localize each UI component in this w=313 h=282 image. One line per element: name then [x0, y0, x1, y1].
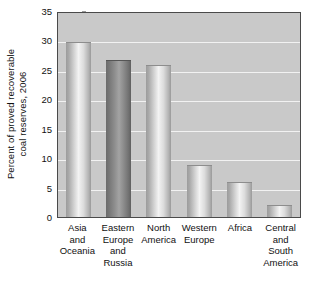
bar-asia-and-oceania[interactable] — [66, 42, 91, 217]
y-tick-label-15: 15 — [30, 125, 52, 135]
plot-area — [57, 12, 301, 218]
bar-series — [58, 13, 300, 217]
bar-africa[interactable] — [227, 182, 252, 217]
x-axis-tick-labels: Asia and Oceania Eastern Europe and Russ… — [57, 222, 301, 268]
y-tick-label-10: 10 — [30, 154, 52, 164]
y-axis-title: Percent of proved recoverable coal reser… — [5, 9, 29, 219]
x-tick-label-north-america: North America — [138, 222, 179, 268]
bar-slot-africa — [219, 13, 259, 217]
y-tick-label-0: 0 — [30, 213, 52, 223]
bar-western-europe[interactable] — [187, 165, 212, 217]
y-tick-label-30: 30 — [30, 37, 52, 47]
bar-central-and-south-america[interactable] — [267, 205, 292, 217]
bar-chart: Percent of proved recoverable coal reser… — [0, 0, 313, 282]
x-tick-label-central-and-south-america: Central and South America — [260, 222, 301, 268]
y-axis-tick-labels: 0 5 10 15 20 25 30 35 — [30, 12, 52, 218]
bar-north-america[interactable] — [146, 65, 171, 217]
x-tick-label-eastern-europe-and-russia: Eastern Europe and Russia — [98, 222, 139, 268]
y-tick-label-5: 5 — [30, 184, 52, 194]
bar-slot-western-europe — [179, 13, 219, 217]
x-tick-label-africa: Africa — [220, 222, 261, 268]
y-tick-label-35: 35 — [30, 7, 52, 17]
bar-slot-asia-and-oceania — [58, 13, 98, 217]
bar-eastern-europe-and-russia[interactable] — [106, 60, 131, 217]
y-tick-label-25: 25 — [30, 66, 52, 76]
bar-slot-north-america — [139, 13, 179, 217]
x-tick-label-western-europe: Western Europe — [179, 222, 220, 268]
x-tick-label-asia-and-oceania: Asia and Oceania — [57, 222, 98, 268]
bar-slot-eastern-europe-and-russia — [98, 13, 138, 217]
bar-slot-central-and-south-america — [260, 13, 300, 217]
y-tick-label-20: 20 — [30, 96, 52, 106]
